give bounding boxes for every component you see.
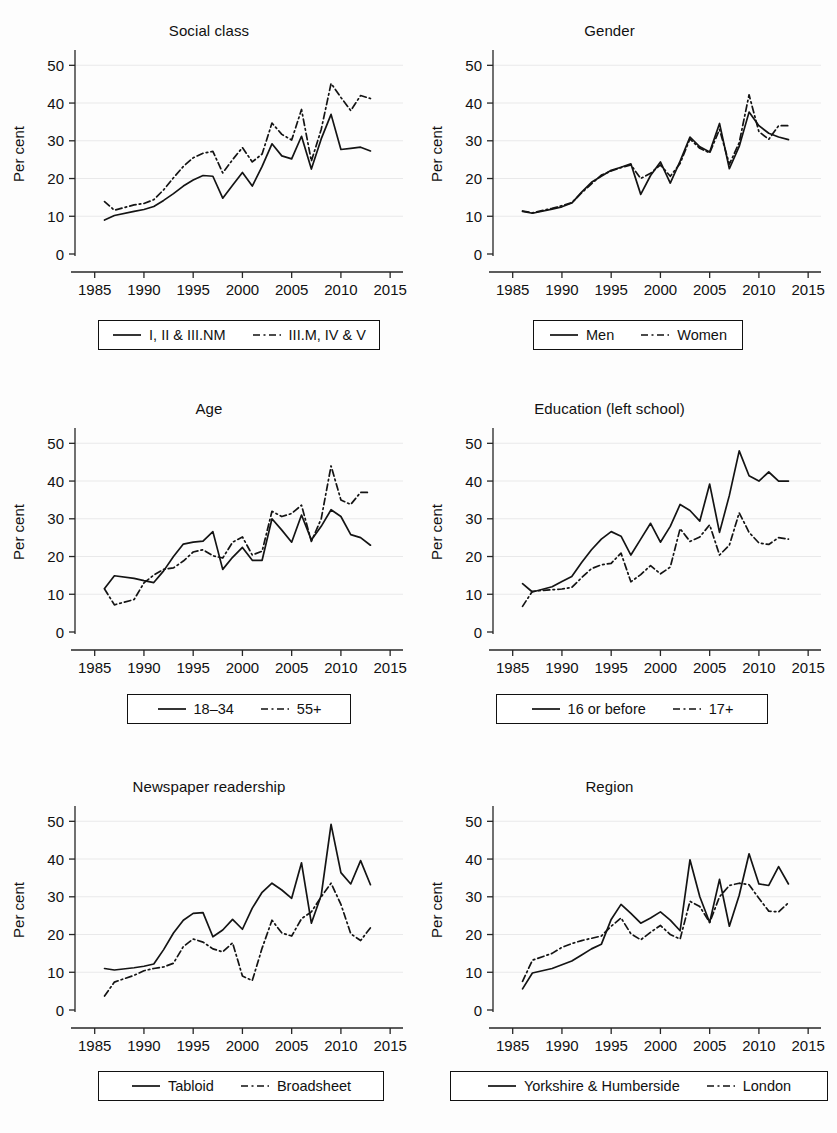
svg-text:2005: 2005 [275,659,308,676]
dashed-line-key-icon [706,1081,736,1091]
svg-text:Per cent: Per cent [10,503,27,560]
legend-entry-solid: Men [549,327,614,343]
svg-text:50: 50 [47,813,64,830]
legend-label-solid: 16 or before [568,701,646,717]
panel-gender: Gender 010203040501985199019952000200520… [418,0,837,378]
svg-text:0: 0 [474,624,482,641]
plot-gender: 010203040501985199019952000200520102015P… [418,40,837,300]
svg-text:1995: 1995 [176,659,209,676]
legend-label-dashed: 17+ [709,701,734,717]
svg-text:40: 40 [465,95,482,112]
svg-text:2000: 2000 [226,659,259,676]
plot-social-class: 010203040501985199019952000200520102015P… [0,40,418,300]
svg-text:40: 40 [47,473,64,490]
panel-title: Gender [418,22,837,39]
legend-entry-dashed: London [706,1078,791,1094]
legend-label-solid: Tabloid [168,1078,214,1094]
svg-text:10: 10 [47,964,64,981]
svg-text:1985: 1985 [496,659,529,676]
figure-page: Social class 010203040501985199019952000… [0,0,837,1133]
dashed-line-key-icon [252,330,282,340]
legend-label-solid: Men [586,327,614,343]
svg-text:2000: 2000 [226,1037,259,1054]
solid-line-key-icon [549,330,579,340]
legend-entry-solid: 16 or before [531,701,646,717]
svg-text:2005: 2005 [693,659,726,676]
legend-region: Yorkshire & Humberside London [450,1071,828,1101]
svg-text:1990: 1990 [545,281,578,298]
panel-newspaper-readership: Newspaper readership 0102030405019851990… [0,756,418,1133]
dashed-line-key-icon [240,1081,270,1091]
svg-text:2005: 2005 [693,1037,726,1054]
svg-text:1985: 1985 [496,1037,529,1054]
svg-text:2010: 2010 [324,281,357,298]
svg-text:2000: 2000 [644,659,677,676]
legend-label-dashed: London [743,1078,791,1094]
svg-text:Per cent: Per cent [10,125,27,182]
svg-text:2005: 2005 [275,1037,308,1054]
panel-title: Newspaper readership [0,778,418,795]
legend-label-dashed: Broadsheet [277,1078,351,1094]
panel-title: Social class [0,22,418,39]
svg-text:50: 50 [465,435,482,452]
legend-entry-dashed: Women [640,327,727,343]
plot-region: 010203040501985199019952000200520102015P… [418,796,837,1056]
svg-text:2015: 2015 [373,1037,406,1054]
svg-text:2000: 2000 [644,1037,677,1054]
svg-text:1985: 1985 [78,659,111,676]
legend-entry-solid: Tabloid [131,1078,214,1094]
svg-text:1995: 1995 [594,281,627,298]
svg-text:30: 30 [47,132,64,149]
plot-newspaper-readership: 010203040501985199019952000200520102015P… [0,796,418,1056]
svg-text:20: 20 [47,926,64,943]
svg-text:1985: 1985 [496,281,529,298]
panel-region: Region 010203040501985199019952000200520… [418,756,837,1133]
legend-entry-solid: I, II & III.NM [112,327,226,343]
svg-text:1995: 1995 [594,1037,627,1054]
svg-text:Per cent: Per cent [428,125,445,182]
svg-text:1995: 1995 [176,281,209,298]
svg-text:2015: 2015 [791,659,824,676]
svg-text:50: 50 [465,813,482,830]
svg-text:2010: 2010 [742,1037,775,1054]
legend-social-class: I, II & III.NM III.M, IV & V [98,320,380,350]
legend-newspaper-readership: Tabloid Broadsheet [98,1071,384,1101]
svg-text:20: 20 [465,926,482,943]
svg-text:2010: 2010 [742,281,775,298]
svg-text:2000: 2000 [644,281,677,298]
legend-label-dashed: 55+ [297,701,322,717]
svg-text:1990: 1990 [545,1037,578,1054]
panel-grid: Social class 010203040501985199019952000… [0,0,837,1133]
svg-text:30: 30 [465,132,482,149]
solid-line-key-icon [112,330,142,340]
panel-title: Region [418,778,837,795]
legend-label-solid: Yorkshire & Humberside [524,1078,680,1094]
legend-entry-dashed: 17+ [672,701,734,717]
svg-text:20: 20 [465,548,482,565]
panel-social-class: Social class 010203040501985199019952000… [0,0,418,378]
legend-entry-solid: Yorkshire & Humberside [487,1078,680,1094]
legend-label-solid: I, II & III.NM [149,327,226,343]
solid-line-key-icon [531,704,561,714]
svg-text:2010: 2010 [742,659,775,676]
legend-entry-dashed: Broadsheet [240,1078,351,1094]
svg-text:2000: 2000 [226,281,259,298]
svg-text:1990: 1990 [545,659,578,676]
svg-text:10: 10 [47,586,64,603]
svg-text:10: 10 [465,964,482,981]
panel-title: Education (left school) [418,400,837,417]
svg-text:20: 20 [47,548,64,565]
svg-text:2015: 2015 [791,1037,824,1054]
plot-age: 010203040501985199019952000200520102015P… [0,418,418,678]
svg-text:1990: 1990 [127,659,160,676]
svg-text:30: 30 [47,510,64,527]
svg-text:2005: 2005 [693,281,726,298]
panel-age: Age 010203040501985199019952000200520102… [0,378,418,756]
plot-education: 010203040501985199019952000200520102015P… [418,418,837,678]
svg-text:0: 0 [56,1002,64,1019]
svg-text:30: 30 [465,510,482,527]
svg-text:20: 20 [47,170,64,187]
legend-gender: Men Women [533,320,743,350]
svg-text:10: 10 [47,208,64,225]
dashed-line-key-icon [260,704,290,714]
